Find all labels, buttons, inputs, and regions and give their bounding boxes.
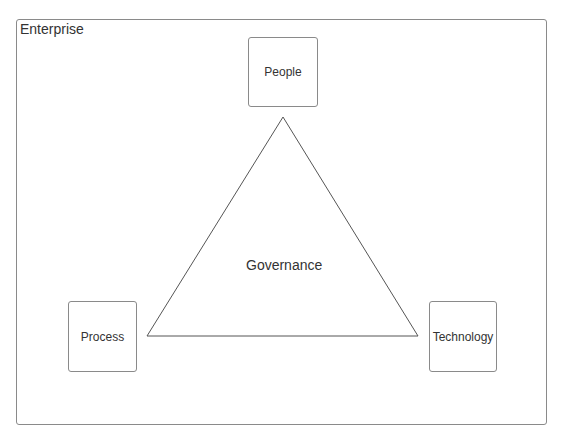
governance-label: Governance [246,257,322,273]
governance-triangle [0,0,565,440]
